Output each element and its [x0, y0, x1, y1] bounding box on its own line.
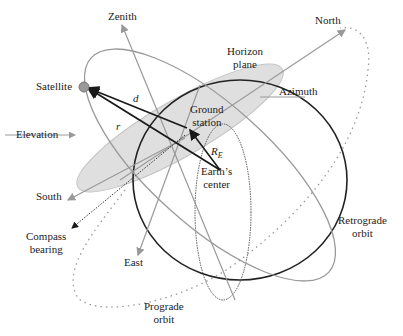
ground-station-label: Ground station — [190, 103, 224, 129]
earths-center-label: Earth’s center — [201, 165, 232, 191]
satellite-geometry-diagram: Zenith North Horizon plane Satellite Azi… — [0, 0, 403, 336]
east-label: East — [124, 256, 143, 269]
re-vector-label: RE — [211, 145, 223, 162]
zenith-label: Zenith — [108, 10, 137, 23]
horizon-plane-label: Horizon plane — [227, 45, 263, 71]
south-label: South — [36, 190, 62, 203]
retrograde-orbit-label: Retrograde orbit — [338, 214, 387, 240]
elevation-label: Elevation — [16, 128, 58, 141]
r-vector-label: r — [116, 120, 120, 133]
satellite-dot — [79, 82, 89, 92]
prograde-orbit-label: Prograde orbit — [144, 300, 184, 326]
compass-bearing-label: Compass bearing — [26, 230, 66, 256]
d-vector-label: d — [133, 92, 139, 105]
satellite-label: Satellite — [36, 80, 72, 93]
azimuth-label: Azimuth — [279, 85, 318, 98]
north-label: North — [315, 14, 341, 27]
